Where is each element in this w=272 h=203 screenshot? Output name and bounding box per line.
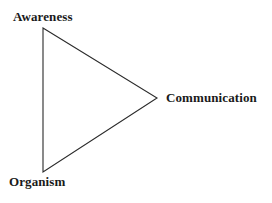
triangle-outline bbox=[43, 28, 157, 172]
vertex-label-communication: Communication bbox=[166, 91, 257, 105]
vertex-label-organism: Organism bbox=[9, 175, 65, 189]
triangle-diagram-figure: Awareness Communication Organism bbox=[0, 0, 272, 203]
vertex-label-awareness: Awareness bbox=[13, 10, 73, 24]
